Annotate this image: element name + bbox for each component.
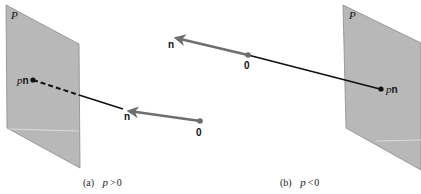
origin-label: 0 (196, 127, 202, 138)
origin-point (245, 52, 251, 58)
normal-vector-n (176, 38, 248, 55)
normal-vector-n (129, 111, 200, 121)
point-pn-label: pn (385, 83, 398, 95)
caption-b: (b) p<0 (280, 176, 319, 189)
origin-point (197, 118, 203, 124)
figure-canvas: P pn n 0 (a) p>0 P pn n 0 (0, 0, 421, 194)
origin-label: 0 (244, 60, 250, 71)
line-segment (79, 95, 123, 109)
normal-label: n (168, 39, 174, 50)
plane-p-left (6, 5, 80, 168)
normal-label: n (124, 111, 130, 122)
plane-label: P (348, 9, 356, 21)
panel-b: P pn n 0 (b) p<0 (168, 5, 421, 189)
panel-a: P pn n 0 (a) p>0 (6, 5, 203, 189)
point-pn (378, 86, 383, 91)
caption-a: (a) p>0 (83, 176, 122, 189)
point-pn (30, 77, 35, 82)
point-pn-label: pn (16, 74, 29, 86)
plane-label: P (10, 9, 18, 21)
